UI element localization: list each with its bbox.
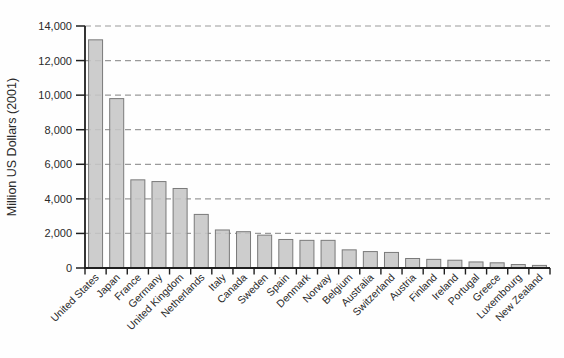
bar-germany xyxy=(152,182,166,268)
bar-denmark xyxy=(300,240,314,268)
bar-united-states xyxy=(89,40,103,268)
bar-chart-figure: 02,0004,0006,0008,00010,00012,00014,000 … xyxy=(0,0,564,358)
bar-portugal xyxy=(469,262,483,268)
bar-japan xyxy=(110,99,124,268)
y-tick-label: 2,000 xyxy=(44,227,72,239)
bar-sweden xyxy=(258,235,272,268)
axes xyxy=(76,26,550,275)
x-tick-labels: United StatesJapanFranceGermanyUnited Ki… xyxy=(48,270,545,332)
bar-france xyxy=(131,180,145,268)
y-tick-label: 4,000 xyxy=(44,193,72,205)
y-tick-labels: 02,0004,0006,0008,00010,00012,00014,000 xyxy=(38,20,72,274)
y-tick-label: 6,000 xyxy=(44,158,72,170)
x-tick-label-united-states: United States xyxy=(48,271,101,324)
bar-netherlands xyxy=(194,214,208,268)
bar-italy xyxy=(215,230,229,268)
bar-belgium xyxy=(342,250,356,268)
y-axis-title: Million US Dollars (2001) xyxy=(5,78,19,216)
bar-austria xyxy=(406,258,420,268)
bar-norway xyxy=(321,240,335,268)
bar-canada xyxy=(237,232,251,268)
bar-chart: 02,0004,0006,0008,00010,00012,00014,000 … xyxy=(0,0,564,358)
bar-united-kingdom xyxy=(173,188,187,268)
bar-spain xyxy=(279,239,293,268)
y-tick-label: 12,000 xyxy=(38,55,72,67)
bar-australia xyxy=(363,252,377,268)
bar-finland xyxy=(427,259,441,268)
y-tick-label: 0 xyxy=(66,262,72,274)
bar-switzerland xyxy=(384,252,398,268)
y-tick-label: 14,000 xyxy=(38,20,72,32)
bar-ireland xyxy=(448,260,462,268)
y-tick-label: 8,000 xyxy=(44,124,72,136)
y-tick-label: 10,000 xyxy=(38,89,72,101)
